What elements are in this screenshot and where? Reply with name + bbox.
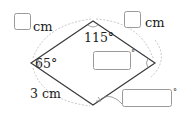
angle-label-left: 65° bbox=[35, 56, 57, 71]
angle-arc-bottom bbox=[99, 97, 122, 105]
answer-box-top-left-side[interactable] bbox=[15, 14, 31, 30]
answer-box-right-angle[interactable] bbox=[94, 52, 131, 70]
diagram-canvas: 115° 65° 3 cm cm cm ° ° bbox=[0, 0, 186, 128]
unit-label-top-left: cm bbox=[33, 19, 53, 34]
degree-sign-bottom-angle: ° bbox=[173, 87, 177, 96]
degree-sign-right-angle: ° bbox=[131, 48, 135, 57]
unit-label-top-right: cm bbox=[145, 15, 165, 30]
answer-box-bottom-angle[interactable] bbox=[123, 90, 172, 107]
dashed-arc-right bbox=[150, 40, 161, 78]
parallelogram-diagram: 115° 65° 3 cm cm cm ° ° bbox=[0, 0, 186, 128]
side-label-bottom-left: 3 cm bbox=[30, 86, 61, 101]
angle-arc-top bbox=[88, 25, 98, 27]
arrow-head-bottom bbox=[96, 97, 101, 101]
angle-label-top: 115° bbox=[84, 30, 114, 45]
answer-box-top-right-side[interactable] bbox=[125, 12, 141, 28]
angle-arc-right bbox=[147, 58, 149, 68]
